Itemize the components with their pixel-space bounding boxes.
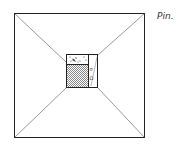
mark-omega: Ω [90, 75, 94, 81]
pyramid-plan-diagram: σ Ω [0, 0, 185, 148]
central-chamber [67, 55, 98, 88]
shaded-chamber [67, 65, 89, 88]
pin-label: Pin. [157, 11, 174, 21]
